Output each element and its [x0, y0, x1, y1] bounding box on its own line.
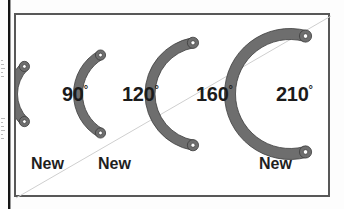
angle-value-160: 160 — [196, 83, 228, 105]
angle-label-210: 210° — [276, 84, 313, 104]
bleed-mark — [1, 76, 4, 77]
new-label-120: New — [98, 156, 131, 172]
eyelet-hole-90-bottom — [23, 65, 27, 69]
new-label-90: New — [31, 156, 64, 172]
bleed-mark — [1, 138, 4, 139]
angle-label-90: 90° — [62, 84, 88, 104]
bleed-mark — [1, 130, 5, 131]
eyelet-hole-90-top — [23, 120, 27, 124]
bleed-mark — [1, 68, 5, 69]
eyelet-hole-160-bottom — [191, 41, 195, 45]
angle-label-120: 120° — [122, 84, 159, 104]
page-bleed-artifacts — [0, 0, 7, 209]
degree-sign-90: ° — [84, 83, 88, 95]
page-gutter-shadow — [10, 0, 11, 209]
degree-sign-210: ° — [308, 83, 312, 95]
bleed-mark — [1, 134, 3, 135]
degree-sign-160: ° — [228, 83, 232, 95]
angle-value-90: 90 — [62, 83, 84, 105]
arc-band-90 — [16, 63, 28, 125]
eyelet-hole-160-top — [191, 143, 195, 147]
angle-value-210: 210 — [276, 83, 308, 105]
new-label-210: New — [259, 156, 292, 172]
bleed-mark — [1, 64, 4, 65]
eyelet-hole-120-bottom — [99, 53, 103, 57]
bleed-mark — [1, 118, 5, 119]
angle-value-120: 120 — [122, 83, 154, 105]
bleed-mark — [1, 60, 3, 61]
figure-frame: 90° 120° 160° 210° New New New — [14, 13, 330, 197]
arc-parts-group — [16, 29, 312, 160]
angle-label-160: 160° — [196, 84, 233, 104]
bleed-mark — [1, 122, 3, 123]
eyelet-hole-210-top — [303, 150, 308, 155]
eyelet-hole-120-top — [99, 131, 103, 135]
scanned-page: 90° 120° 160° 210° New New New — [0, 0, 344, 209]
degree-sign-120: ° — [154, 83, 158, 95]
bleed-mark — [1, 72, 3, 73]
bleed-mark — [1, 126, 4, 127]
eyelet-hole-210-bottom — [303, 34, 308, 39]
